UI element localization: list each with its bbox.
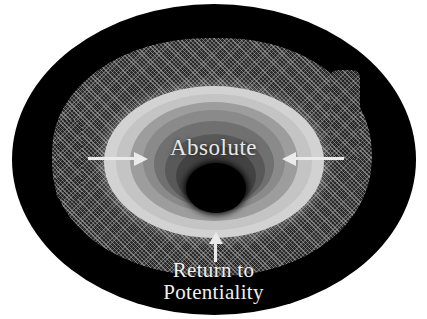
absolute-label: Absolute [0, 134, 427, 162]
bottom-arrow-head [209, 232, 223, 244]
caption-line-2: Potentiality [0, 281, 427, 303]
right-arrow-shaft [294, 157, 344, 160]
caption-line-1: Return to [0, 259, 427, 281]
left-arrow-shaft [88, 157, 138, 160]
right-arrow-icon [282, 152, 344, 166]
diagram-canvas: Absolute Return to Potentiality [0, 0, 427, 319]
right-arrow-head [282, 152, 296, 166]
caption: Return to Potentiality [0, 259, 427, 303]
left-arrow-head [134, 152, 148, 166]
central-core-ellipse [186, 163, 246, 213]
left-arrow-icon [88, 152, 150, 166]
